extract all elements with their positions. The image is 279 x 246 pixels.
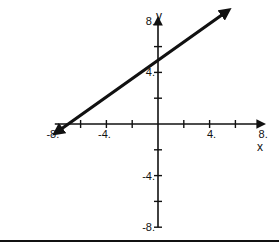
y-tick-label: 8. (146, 15, 155, 27)
x-axis-label: x (257, 140, 263, 154)
coordinate-plane: -8.-4.4.8.8.4.-4.-8.xy (0, 0, 279, 246)
y-axis-label: y (156, 9, 162, 23)
x-tick-label: -8. (46, 128, 59, 140)
series-line (57, 12, 226, 132)
x-tick-label: 8. (259, 128, 268, 140)
x-tick-label: -4. (98, 128, 111, 140)
x-tick-label: 4. (207, 128, 216, 140)
y-tick-label: -8. (142, 221, 155, 233)
y-tick-label: -4. (142, 170, 155, 182)
